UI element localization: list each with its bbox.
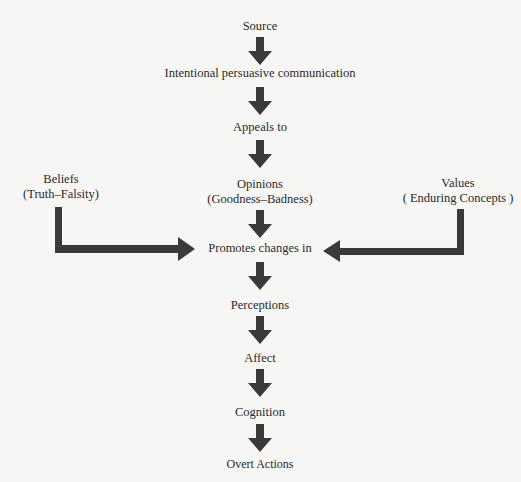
arrow-down-icon <box>248 37 272 65</box>
arrow-down-icon <box>248 210 272 238</box>
arrow-down-icon <box>248 424 272 452</box>
arrow-down-icon <box>248 316 272 344</box>
arrow-down-icon <box>248 369 272 397</box>
arrow-down-icon <box>248 140 272 168</box>
arrow-down-icon <box>248 262 272 290</box>
arrow-down-icon <box>248 87 272 115</box>
arrows-layer <box>0 0 521 482</box>
values-elbow-arrow-icon <box>323 209 464 262</box>
beliefs-elbow-arrow-icon <box>55 207 195 261</box>
